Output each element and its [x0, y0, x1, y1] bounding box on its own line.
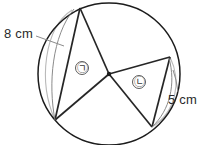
region-marker-ga: ㉠: [76, 62, 89, 76]
radius-to-right: [109, 57, 170, 74]
region-marker-na-glyph: ㉡: [134, 76, 145, 89]
region-marker-na: ㉡: [133, 76, 146, 90]
leader-stroke-left: [36, 36, 64, 46]
radii-group: [55, 8, 170, 127]
leader-line-left: [36, 36, 64, 46]
region-marker-ga-glyph: ㉠: [77, 62, 88, 75]
circle-sector-diagram: Circle divided by five radii with two la…: [0, 0, 212, 145]
inner-chord-left: [52, 9, 74, 120]
arc-length-label-right: 5 cm: [168, 92, 197, 107]
center-point-dot: [107, 72, 111, 76]
chords-group: [55, 8, 170, 127]
geometry-figure-container: Circle divided by five radii with two la…: [0, 0, 212, 145]
inner-arc-chords: [52, 9, 172, 127]
arc-length-label-left: 8 cm: [4, 26, 33, 41]
